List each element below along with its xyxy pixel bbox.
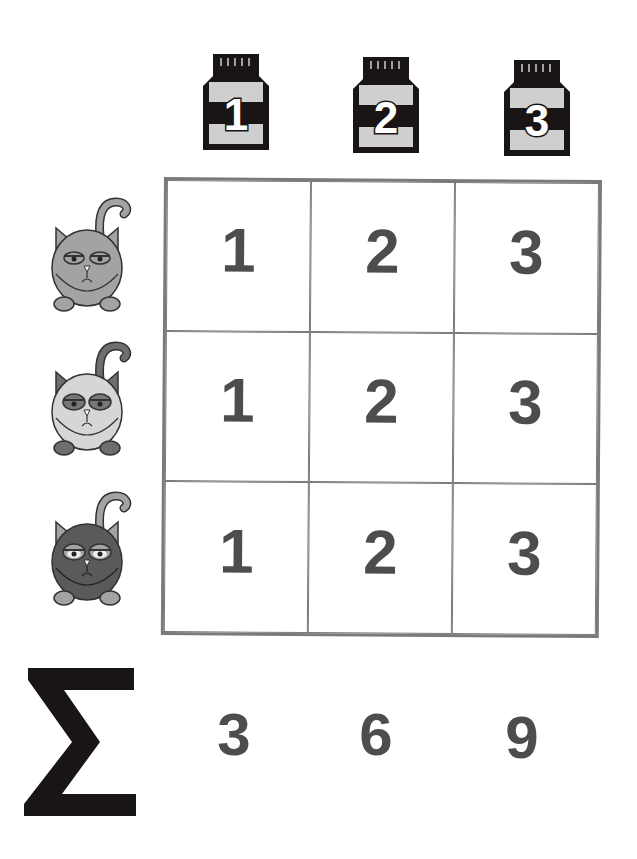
cell-value: 1 [221,214,256,285]
cell-value: 1 [219,516,254,587]
cell-value: 3 [509,216,544,287]
jar-column-header-1: 1 [199,52,273,152]
grid-cell: 1 [166,180,311,332]
grid-cell: 2 [309,332,454,484]
jar-icon: 1 [199,52,273,152]
sigma-icon [24,668,138,816]
jar-icon: 2 [349,55,423,155]
grid-cell: 1 [164,481,309,633]
grid-cell: 2 [308,482,453,634]
cell-value: 1 [220,365,255,436]
svg-text:3: 3 [525,96,549,145]
grid-cell: 3 [452,483,597,635]
grid-cell: 3 [453,333,598,485]
cell-value: 3 [507,518,542,589]
grid-cell: 3 [454,182,599,334]
column-sum-2: 6 [346,700,406,769]
jar-column-header-2: 2 [349,55,423,155]
cell-value: 3 [508,367,543,438]
grumpy-cat-icon [42,340,132,460]
column-sum-3: 9 [492,703,552,772]
cell-value: 2 [363,517,398,588]
svg-text:1: 1 [224,90,248,139]
grid-cell: 1 [165,331,310,483]
cat-row-header-3 [42,490,132,610]
svg-text:2: 2 [374,93,398,142]
jar-icon: 3 [500,58,574,158]
cell-value: 2 [364,366,399,437]
jar-column-header-3: 3 [500,58,574,158]
number-grid: 1 2 3 1 2 3 1 2 3 [161,177,602,638]
column-sum-1: 3 [204,700,264,769]
cell-value: 2 [365,215,400,286]
cat-row-header-1 [42,196,132,316]
grumpy-cat-icon [42,490,132,610]
grumpy-cat-icon [42,196,132,316]
cat-row-header-2 [42,340,132,460]
grid-cell: 2 [310,181,455,333]
